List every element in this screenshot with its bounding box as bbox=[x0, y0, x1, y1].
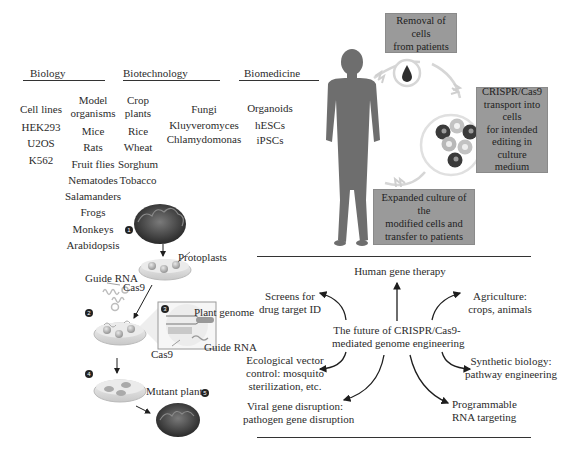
transport-line-5: medium bbox=[495, 161, 529, 174]
app-screens: Screens for drug target ID bbox=[255, 290, 325, 316]
petri-dish-2 bbox=[94, 321, 146, 345]
label-cas9-inset: Cas9 bbox=[151, 347, 173, 361]
expanded-line-1: Expanded culture of the bbox=[376, 191, 472, 217]
ecological-line-3: sterilization, etc. bbox=[245, 380, 325, 393]
removal-line-1: Removal of cells bbox=[388, 14, 454, 40]
viral-line-2: pathogen gene disruption bbox=[243, 413, 347, 426]
future-center-label: The future of CRISPR/Cas9- mediated geno… bbox=[332, 324, 462, 350]
agriculture-line-2: crops, animals bbox=[460, 303, 540, 316]
screens-line-2: drug target ID bbox=[255, 303, 325, 316]
transport-line-3: for intended bbox=[486, 124, 537, 137]
step-1-badge: 1 bbox=[125, 226, 133, 234]
label-guide-rna-inset: Guide RNA bbox=[204, 340, 257, 354]
edited-cells-icon bbox=[421, 115, 481, 175]
app-synthetic-biology: Synthetic biology: pathway engineering bbox=[464, 355, 558, 381]
label-protoplasts: Protoplasts bbox=[178, 250, 227, 264]
app-human-gene-therapy: Human gene therapy bbox=[345, 264, 455, 278]
petri-dish-4 bbox=[94, 380, 146, 403]
mutant-plant-icon bbox=[156, 403, 200, 437]
crispr-transport-box: CRISPR/Cas9 transport into cells for int… bbox=[476, 87, 548, 173]
center-line-2: mediated genome engineering bbox=[332, 337, 462, 350]
app-ecological: Ecological vector control: mosquito ster… bbox=[245, 354, 325, 393]
transport-line-1: CRISPR/Cas9 bbox=[482, 86, 542, 99]
expanded-culture-box: Expanded culture of the modified cells a… bbox=[373, 189, 475, 245]
removal-line-2: from patients bbox=[393, 40, 449, 53]
app-viral-gene-disruption: Viral gene disruption: pathogen gene dis… bbox=[243, 400, 347, 426]
transport-line-4: editing in culture bbox=[479, 136, 545, 161]
screens-line-1: Screens for bbox=[255, 290, 325, 303]
step-3-badge: 3 bbox=[161, 305, 169, 313]
label-mutant-plant: Mutant plant bbox=[146, 384, 203, 398]
removal-box: Removal of cells from patients bbox=[385, 13, 457, 53]
app-agriculture: Agriculture: crops, animals bbox=[460, 290, 540, 316]
rna-line-2: RNA targeting bbox=[452, 411, 517, 424]
expanded-line-3: transfer to patients bbox=[385, 230, 463, 243]
viral-line-1: Viral gene disruption: bbox=[243, 400, 347, 413]
step-2-badge: 2 bbox=[85, 309, 93, 317]
label-cas9: Cas9 bbox=[123, 280, 145, 294]
lettuce-plant-icon bbox=[134, 204, 186, 244]
expanded-line-2: modified cells and bbox=[385, 217, 463, 230]
blood-drop-icon bbox=[394, 60, 420, 86]
human-silhouette-icon bbox=[326, 49, 380, 246]
synthetic-line-1: Synthetic biology: bbox=[464, 355, 558, 368]
agriculture-line-1: Agriculture: bbox=[460, 290, 540, 303]
center-line-1: The future of CRISPR/Cas9- bbox=[332, 324, 462, 337]
ecological-line-2: control: mosquito bbox=[245, 367, 325, 380]
transport-line-2: transport into cells bbox=[479, 99, 545, 124]
label-plant-genome: Plant genome bbox=[194, 305, 254, 319]
rna-line-1: Programmable bbox=[452, 398, 517, 411]
app-rna-targeting: Programmable RNA targeting bbox=[452, 398, 517, 424]
synthetic-line-2: pathway engineering bbox=[464, 368, 558, 381]
step-4-badge: 4 bbox=[85, 370, 93, 378]
future-bottom-rule bbox=[257, 437, 531, 438]
ecological-line-1: Ecological vector bbox=[245, 354, 325, 367]
future-top-rule bbox=[257, 256, 531, 257]
